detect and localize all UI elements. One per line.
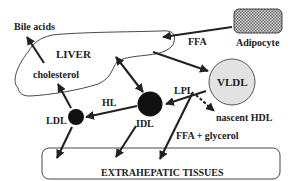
ldl-particle — [68, 109, 84, 125]
ffa-glycerol-label: FFA + glycerol — [176, 130, 239, 141]
lpl-label: LPL — [174, 85, 194, 96]
ffa-glycerol-arrow — [160, 92, 193, 159]
lipoprotein-diagram: Bile acids LIVER cholesterol FFA Adipocy… — [0, 0, 304, 181]
liver-outline — [15, 31, 174, 96]
nascent-hdl-label: nascent HDL — [216, 112, 273, 123]
ffa-label: FFA — [188, 36, 207, 47]
cholesterol-label: cholesterol — [33, 69, 79, 80]
idl-liver-arrow — [116, 57, 143, 92]
hl-label: HL — [102, 97, 117, 108]
liver-to-vldl-arrow — [153, 52, 208, 71]
bile-acids-label: Bile acids — [14, 21, 55, 32]
vldl-label: VLDL — [217, 76, 248, 88]
liver-label: LIVER — [56, 48, 92, 60]
ldl-to-tissues-arrow — [57, 127, 72, 158]
idl-label: IDL — [136, 118, 154, 129]
ldl-label: LDL — [46, 115, 67, 126]
adipocyte-box — [234, 9, 282, 33]
vldl-to-nascent-hdl-arrow — [196, 95, 214, 111]
idl-to-tissues-arrow — [116, 126, 136, 157]
idl-particle — [138, 92, 163, 117]
extrahepatic-tissues-label: EXTRAHEPATIC TISSUES — [101, 167, 224, 178]
ldl-to-cholesterol-arrow — [58, 84, 71, 108]
adipocyte-label: Adipocyte — [236, 37, 280, 48]
